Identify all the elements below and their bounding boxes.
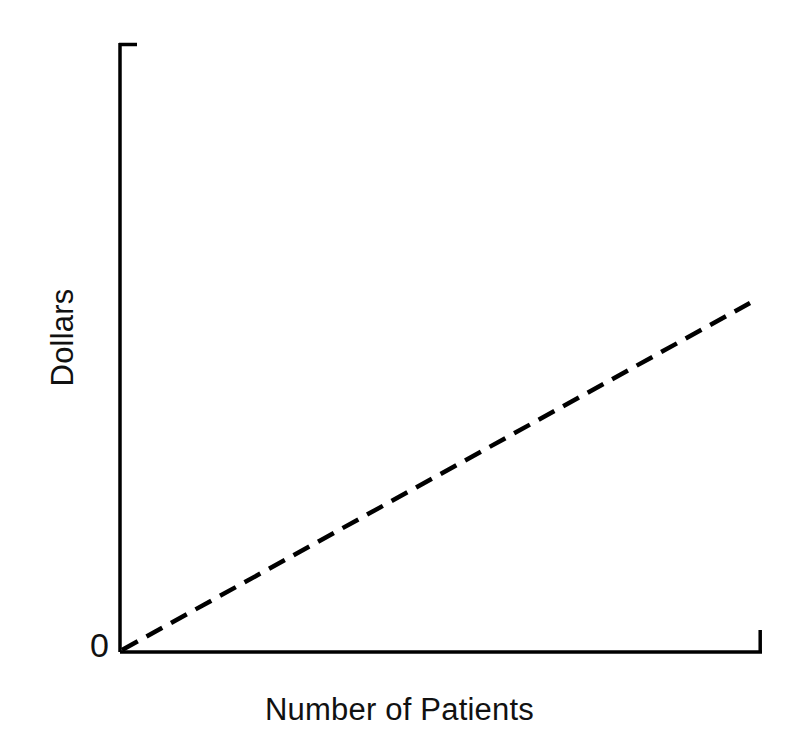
y-axis-title: Dollars <box>47 248 78 428</box>
trend-line-dashed <box>122 303 750 650</box>
origin-zero-label: 0 <box>90 628 109 662</box>
plot-area <box>0 0 799 745</box>
chart-canvas: 0 Dollars Number of Patients <box>0 0 799 745</box>
x-axis-title: Number of Patients <box>0 694 799 725</box>
